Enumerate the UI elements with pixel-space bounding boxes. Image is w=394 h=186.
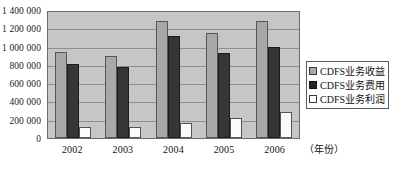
- bar-chart: 1 400 000 1 200 000 1 000 000 800 000 60…: [0, 0, 394, 186]
- bar: [67, 64, 79, 139]
- bar: [218, 53, 230, 138]
- y-axis-tick-label: 1 200 000: [2, 24, 41, 34]
- bar: [168, 36, 180, 138]
- bar-group: [199, 12, 249, 138]
- bar-group: [98, 12, 148, 138]
- x-axis-tick-label: 2006: [249, 141, 300, 161]
- legend-item: CDFS业务费用: [309, 78, 385, 92]
- bar-group-bars: [48, 12, 98, 138]
- bar: [206, 33, 218, 138]
- legend-swatch-icon: [309, 95, 317, 103]
- chart-legend: CDFS业务收益 CDFS业务费用 CDFS业务利润: [306, 61, 389, 109]
- bar-group-bars: [199, 12, 249, 138]
- legend-item: CDFS业务收益: [309, 64, 385, 78]
- bar: [230, 118, 242, 138]
- bar-group-bars: [148, 12, 198, 138]
- y-axis-tick-label: 800 000: [9, 61, 41, 71]
- x-axis-tick-label: 2003: [98, 141, 149, 161]
- legend-item-label: CDFS业务费用: [320, 80, 385, 91]
- x-axis-labels: 20022003200420052006: [47, 141, 300, 161]
- y-axis-tick-label: 200 000: [9, 116, 41, 126]
- legend-item: CDFS业务利润: [309, 92, 385, 106]
- bar: [55, 52, 67, 138]
- bar: [129, 127, 141, 138]
- bar-groups: [48, 12, 299, 138]
- legend-item-label: CDFS业务收益: [320, 66, 385, 77]
- bar-group: [249, 12, 299, 138]
- legend-item-label: CDFS业务利润: [320, 94, 385, 105]
- bar-group-bars: [98, 12, 148, 138]
- legend-swatch-icon: [309, 81, 317, 89]
- x-axis-tick-label: 2002: [47, 141, 98, 161]
- bar: [156, 21, 168, 138]
- y-axis-tick-label: 600 000: [9, 79, 41, 89]
- bar: [105, 56, 117, 138]
- x-axis-tick-label: 2004: [148, 141, 199, 161]
- bar: [256, 21, 268, 138]
- bar: [268, 47, 280, 138]
- x-axis-tick-label: 2005: [199, 141, 250, 161]
- y-axis-tick-label: 400 000: [9, 97, 41, 107]
- bar: [117, 67, 129, 138]
- bar: [79, 127, 91, 138]
- bar: [280, 112, 292, 139]
- x-axis-unit-label: （年份）: [304, 141, 344, 159]
- bar-group: [48, 12, 98, 138]
- y-axis-tick-label: 1 000 000: [2, 43, 41, 53]
- bar-group: [148, 12, 198, 138]
- bar-group-bars: [249, 12, 299, 138]
- plot-area: [47, 11, 300, 139]
- legend-swatch-icon: [309, 67, 317, 75]
- y-axis-tick-label: 0: [36, 134, 41, 144]
- y-axis-labels: 1 400 000 1 200 000 1 000 000 800 000 60…: [0, 0, 44, 186]
- bar: [180, 123, 192, 138]
- y-axis-tick-label: 1 400 000: [2, 6, 41, 16]
